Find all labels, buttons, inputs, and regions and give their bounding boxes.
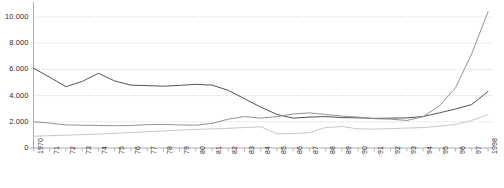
x-axis-tick-label: 80 — [199, 146, 206, 154]
chart-plot-area — [0, 0, 504, 188]
y-axis-tick-label: 0 — [0, 144, 29, 152]
x-axis-tick-label: 74 — [101, 146, 108, 154]
x-axis-tick-label: 96 — [459, 146, 466, 154]
x-axis-tick-label: 87 — [312, 146, 319, 154]
y-axis-tick-label: 4.000 — [0, 92, 29, 100]
x-axis-tick-label: 94 — [426, 146, 433, 154]
x-axis-tick-label: 77 — [150, 146, 157, 154]
y-axis-tick-label: 6.000 — [0, 65, 29, 73]
x-axis-tick-label: 1998 — [491, 138, 498, 154]
x-axis-tick-label: 93 — [410, 146, 417, 154]
x-axis-tick-label: 84 — [264, 146, 271, 154]
x-axis-tick-label: 86 — [296, 146, 303, 154]
x-axis-tick-label: 92 — [394, 146, 401, 154]
y-axis-tick-label: 8.000 — [0, 39, 29, 47]
x-axis-tick-label: 95 — [442, 146, 449, 154]
x-axis-tick-label: 85 — [280, 146, 287, 154]
x-axis-tick-label: 75 — [118, 146, 125, 154]
x-axis-tick-label: 89 — [345, 146, 352, 154]
x-axis-tick-label: 73 — [85, 146, 92, 154]
x-axis-tick-label: 76 — [134, 146, 141, 154]
axis-lines — [30, 2, 493, 148]
data-series — [34, 12, 489, 136]
x-axis-tick-label: 97 — [475, 146, 482, 154]
series-line-series-medium — [34, 12, 489, 126]
x-axis-tick-label: 82 — [231, 146, 238, 154]
x-axis-tick-label: 83 — [248, 146, 255, 154]
x-axis-tick-label: 79 — [183, 146, 190, 154]
y-axis-tick-label: 10.000 — [0, 13, 29, 21]
y-axis-tick-label: 2.000 — [0, 118, 29, 126]
x-axis-tick-label: 72 — [69, 146, 76, 154]
x-axis-tick-label: 90 — [361, 146, 368, 154]
x-axis-tick-label: 78 — [166, 146, 173, 154]
x-axis-tick-label: 1970 — [37, 138, 44, 154]
series-line-series-dark — [34, 68, 489, 118]
x-axis-tick-label: 88 — [329, 146, 336, 154]
gridlines — [34, 17, 493, 122]
x-axis-tick-label: 81 — [215, 146, 222, 154]
x-axis-tick-label: 91 — [377, 146, 384, 154]
x-axis-tick-label: 71 — [53, 146, 60, 154]
line-chart: 02.0004.0006.0008.00010.000 197071727374… — [0, 0, 504, 188]
